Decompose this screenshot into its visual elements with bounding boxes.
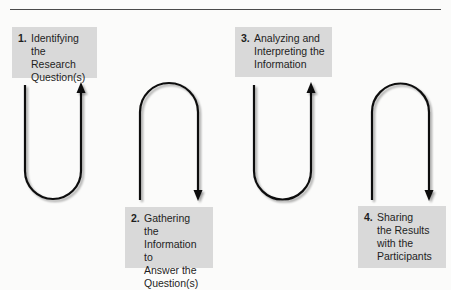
step-number: 1. <box>18 32 31 84</box>
step-label: Analyzing and Interpreting the Informati… <box>254 32 325 71</box>
arrow-down-icon <box>194 190 203 201</box>
step-box-2: 2. Gathering the Information to Answer t… <box>125 207 213 268</box>
step-box-1: 1. Identifying the Research Question(s) <box>12 27 97 78</box>
arrow-down-icon <box>425 190 434 201</box>
u-loop-connector-1 <box>25 85 81 199</box>
step-label: Gathering the Information to Answer the … <box>144 212 207 290</box>
step-label: Sharing the Results with the Participant… <box>377 211 432 263</box>
step-box-3: 3. Analyzing and Interpreting the Inform… <box>235 27 332 77</box>
step-label: Identifying the Research Question(s) <box>31 32 91 84</box>
step-number: 2. <box>131 212 144 290</box>
u-loop-connector-2 <box>254 85 311 200</box>
n-loop-connector-2 <box>372 84 429 201</box>
n-loop-connector-1 <box>140 83 198 200</box>
step-number: 4. <box>364 211 377 263</box>
step-box-4: 4. Sharing the Results with the Particip… <box>358 206 446 268</box>
arrow-up-icon <box>307 82 316 93</box>
step-number: 3. <box>241 32 254 71</box>
